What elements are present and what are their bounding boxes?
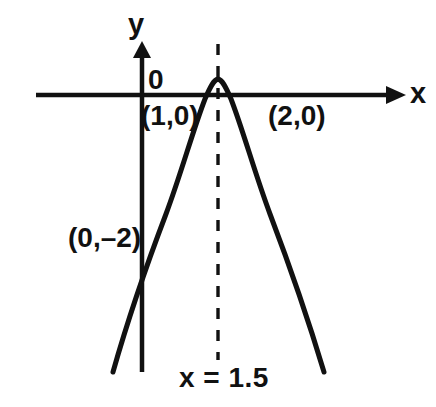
graph-canvas: [0, 0, 436, 407]
annotation-axis-of-symmetry: x = 1.5: [179, 364, 269, 392]
annotation-root-right: (2,0): [268, 102, 326, 130]
y-axis-arrowhead-icon: [133, 41, 151, 58]
x-axis-arrowhead-icon: [386, 86, 406, 104]
annotation-y-intercept: (0,–2): [68, 224, 141, 252]
origin-label: 0: [148, 66, 164, 94]
annotation-root-left: (1,0): [141, 102, 199, 130]
y-axis-label: y: [128, 10, 144, 39]
x-axis-label: x: [410, 79, 426, 108]
parabola-figure: y x 0 (1,0) (2,0) (0,–2) x = 1.5: [0, 0, 436, 407]
x-axis: [36, 86, 406, 104]
